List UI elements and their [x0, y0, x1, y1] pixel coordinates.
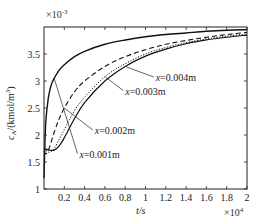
axes: 0.20.40.60.811.21.41.61.8211.522.533.5 [28, 27, 250, 203]
x-tick-label: 1.4 [180, 192, 193, 203]
x-tick-label: 2 [245, 192, 250, 203]
x-tick-label: 1.2 [160, 192, 173, 203]
y-tick-label: 1.5 [28, 157, 41, 168]
y-axis-label: cA/(kmol/m3) [4, 86, 18, 140]
plot-area [44, 30, 247, 179]
x-tick-label: 1 [143, 192, 148, 203]
annotation-label: x=0.004m [155, 72, 197, 83]
annotations: x=0.004mx=0.003mx=0.002mx=0.001m [54, 66, 196, 159]
x-tick-label: 1.6 [200, 192, 213, 203]
chart: 0.20.40.60.811.21.41.61.8211.522.533.5 x… [0, 0, 258, 224]
x-tick-label: 1.8 [220, 192, 233, 203]
annotation-leader [105, 77, 123, 91]
annotation-label: x=0.002m [94, 125, 136, 136]
y-tick-label: 3.5 [28, 49, 41, 60]
annotation-label: x=0.001m [79, 149, 121, 160]
x-multiplier: ×104 [224, 206, 244, 218]
axes-frame [44, 27, 247, 189]
y-tick-label: 1 [35, 184, 40, 195]
x-axis-label: t/s [136, 205, 146, 216]
x-tick-label: 0.4 [78, 192, 91, 203]
x-tick-label: 0.8 [119, 192, 132, 203]
y-tick-label: 2.5 [28, 103, 41, 114]
annotation-leader [125, 66, 153, 77]
series-line [44, 30, 247, 179]
y-tick-label: 2 [35, 130, 40, 141]
y-tick-label: 3 [35, 76, 40, 87]
x-tick-label: 0.2 [58, 192, 71, 203]
x-tick-label: 0.6 [99, 192, 112, 203]
annotation-label: x=0.003m [124, 86, 166, 97]
y-multiplier: ×10-3 [46, 8, 68, 20]
